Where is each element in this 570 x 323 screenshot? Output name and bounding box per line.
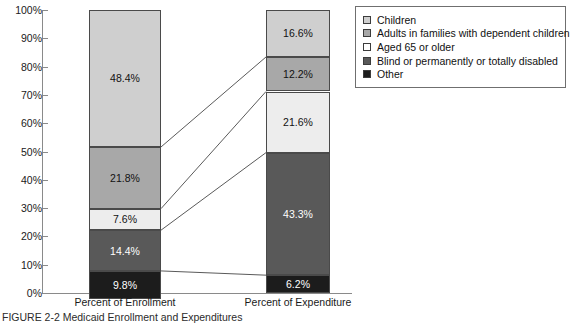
- legend-item-label: Children: [377, 14, 416, 26]
- legend-swatch-icon: [363, 70, 371, 78]
- y-tick-label: 30%: [8, 203, 42, 213]
- y-tick-label: 80%: [8, 62, 42, 72]
- bar-segment: 12.2%: [266, 57, 330, 92]
- legend-item[interactable]: Aged 65 or older: [363, 40, 558, 54]
- x-axis-category-label: Percent of Expenditure: [228, 296, 368, 308]
- bar-segment: 14.4%: [89, 230, 161, 271]
- y-tick-label: 90%: [8, 33, 42, 43]
- y-tick-label: 50%: [8, 147, 42, 157]
- legend-item-label: Blind or permanently or totally disabled: [377, 55, 558, 67]
- bar-segment: 21.8%: [89, 147, 161, 209]
- y-tick-label: 0%: [8, 288, 42, 298]
- bar-segment-value-label: 7.6%: [113, 213, 137, 225]
- bar-segment-value-label: 9.8%: [113, 279, 137, 291]
- y-tick-label: 40%: [8, 175, 42, 185]
- bar-segment-value-label: 48.4%: [110, 72, 140, 84]
- y-tick-mark: [42, 236, 48, 237]
- segment-connector-line: [161, 271, 266, 275]
- y-tick-label: 20%: [8, 231, 42, 241]
- bar-segment: 16.6%: [266, 10, 330, 57]
- legend-swatch-icon: [363, 57, 371, 65]
- legend-item[interactable]: Other: [363, 67, 558, 81]
- legend-swatch-icon: [363, 16, 371, 24]
- bar-segment-value-label: 21.8%: [110, 172, 140, 184]
- y-tick-mark: [42, 95, 48, 96]
- bar-column: 48.4%21.8%7.6%14.4%9.8%: [89, 10, 161, 293]
- y-tick-label: 70%: [8, 90, 42, 100]
- bar-segment: 21.6%: [266, 92, 330, 153]
- segment-connector-line: [161, 57, 266, 147]
- bar-segment: 43.3%: [266, 153, 330, 276]
- bar-segment-value-label: 16.6%: [283, 27, 313, 39]
- y-tick-mark: [42, 293, 48, 294]
- x-axis-category-label: Percent of Enrollment: [55, 296, 195, 308]
- bar-column: 16.6%12.2%21.6%43.3%6.2%: [266, 10, 330, 293]
- bar-segment-value-label: 6.2%: [286, 278, 310, 290]
- bar-segment: 6.2%: [266, 275, 330, 293]
- y-tick-mark: [42, 152, 48, 153]
- y-tick-mark: [42, 38, 48, 39]
- legend-item-label: Aged 65 or older: [377, 41, 455, 53]
- y-tick-mark: [42, 208, 48, 209]
- bar-segment-value-label: 14.4%: [110, 245, 140, 257]
- y-tick-label: 10%: [8, 260, 42, 270]
- legend-item[interactable]: Adults in families with dependent childr…: [363, 27, 558, 41]
- bar-segment: 48.4%: [89, 10, 161, 147]
- bar-segment-value-label: 43.3%: [283, 208, 313, 220]
- y-tick-mark: [42, 265, 48, 266]
- bar-segment-value-label: 21.6%: [283, 116, 313, 128]
- y-tick-mark: [42, 67, 48, 68]
- bar-segment: 7.6%: [89, 209, 161, 231]
- y-tick-mark: [42, 10, 48, 11]
- y-tick-label: 60%: [8, 118, 42, 128]
- legend-item-label: Adults in families with dependent childr…: [377, 27, 570, 39]
- y-tick-label: 100%: [8, 5, 42, 15]
- y-tick-mark: [42, 123, 48, 124]
- figure-caption: FIGURE 2-2 Medicaid Enrollment and Expen…: [2, 311, 242, 323]
- legend-item-label: Other: [377, 68, 403, 80]
- segment-connector-line: [161, 153, 266, 231]
- legend-item[interactable]: Children: [363, 13, 558, 27]
- legend-item[interactable]: Blind or permanently or totally disabled: [363, 54, 558, 68]
- legend-swatch-icon: [363, 43, 371, 51]
- segment-connector-line: [161, 92, 266, 209]
- legend-swatch-icon: [363, 29, 371, 37]
- bar-segment: 9.8%: [89, 271, 161, 299]
- y-tick-mark: [42, 180, 48, 181]
- chart-legend: ChildrenAdults in families with dependen…: [355, 6, 566, 88]
- bar-segment-value-label: 12.2%: [283, 68, 313, 80]
